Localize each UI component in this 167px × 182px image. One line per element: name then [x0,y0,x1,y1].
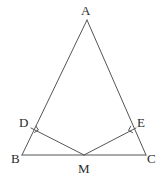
vertex-label-m: M [78,162,90,175]
segments-group [22,20,146,155]
vertex-label-c: C [147,152,156,165]
segment-AB [22,20,87,155]
vertex-label-e: E [137,116,145,129]
figure-canvas [0,0,167,182]
segment-AC [87,20,146,155]
segment-DM [31,128,84,155]
right-angle-marks-group [34,126,133,133]
geometry-figure: A B C D E M [0,0,167,182]
segment-EM [84,128,136,155]
vertex-label-b: B [11,152,20,165]
vertex-label-a: A [81,4,90,17]
vertex-label-d: D [19,116,28,129]
